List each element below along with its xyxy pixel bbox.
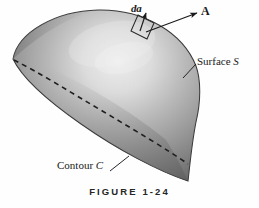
- contour-symbol: C: [96, 159, 103, 171]
- figure-illustration: [0, 0, 259, 208]
- surface-dome: [13, 10, 200, 181]
- area-element-label: da: [131, 3, 142, 14]
- surface-symbol: S: [233, 55, 239, 67]
- figure-1-24-container: da A Surface S Contour C FIGURE 1-24: [0, 0, 259, 208]
- surface-label-text: Surface: [197, 55, 233, 67]
- contour-leader-line: [110, 156, 129, 171]
- contour-label: Contour C: [57, 160, 103, 171]
- figure-caption: FIGURE 1-24: [0, 186, 259, 197]
- vector-field-label: A: [201, 5, 210, 17]
- surface-label: Surface S: [197, 56, 239, 67]
- contour-label-text: Contour: [57, 159, 96, 171]
